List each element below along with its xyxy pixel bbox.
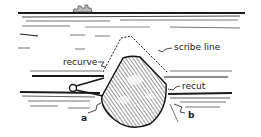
boat-figure-icon xyxy=(73,5,92,12)
label-recut: recut xyxy=(182,82,205,91)
label-b: b xyxy=(188,111,194,120)
label-a: a xyxy=(81,114,87,123)
log-scribing-diagram: scribe line recurve recut a b xyxy=(0,0,261,137)
diagram-drawing xyxy=(0,0,261,137)
label-recurve: recurve xyxy=(63,58,97,67)
label-scribe-line: scribe line xyxy=(174,43,220,52)
log-cross-section xyxy=(102,56,166,127)
